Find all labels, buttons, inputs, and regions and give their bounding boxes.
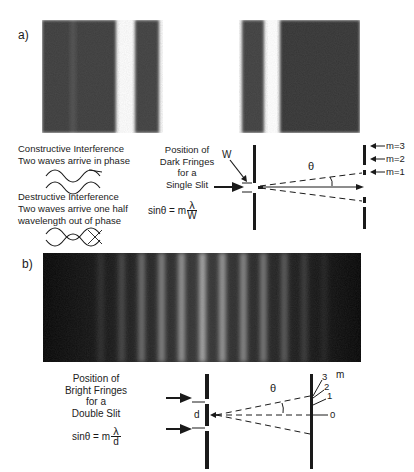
caption-line: Double Slit (56, 408, 136, 420)
equation-denominator: d (113, 437, 119, 447)
double-slit-equation: sinθ = m λ d (72, 426, 121, 447)
panel-b-label: b) (22, 257, 33, 271)
constructive-interference-text: Constructive Interference Two waves arri… (18, 143, 130, 167)
double-slit-diagram: d θ 3 2 1 0 m (160, 368, 360, 472)
equation-lhs: sinθ = m (148, 205, 186, 216)
incoming-light-arrow-icon (180, 424, 192, 434)
equation-numerator: λ (113, 426, 119, 436)
slit-separation-label: d (194, 409, 200, 420)
destructive-subtitle-line1: Two waves arrive one half (18, 203, 128, 215)
order-m1-label: m=1 (386, 166, 405, 177)
single-slit-fringe-image (42, 20, 360, 133)
angle-theta-label: θ (308, 160, 314, 172)
order-0-label: 0 (330, 409, 335, 420)
order-1-label: 1 (327, 390, 332, 401)
caption-line: Position of (56, 373, 136, 385)
destructive-title: Destructive Interference (18, 191, 128, 203)
double-slit-fringe-image (43, 253, 361, 362)
out-of-phase-waves-icon (44, 226, 104, 250)
single-slit-equation: sinθ = m λ W (148, 200, 197, 221)
single-slit-diagram: W θ m=3 m=2 m=1 (210, 140, 414, 235)
order-m3-label: m=3 (386, 140, 405, 151)
order-axis-label: m (336, 369, 344, 380)
destructive-interference-text: Destructive Interference Two waves arriv… (18, 191, 128, 227)
order-m2-label: m=2 (386, 153, 405, 164)
equation-denominator: W (187, 211, 196, 221)
double-slit-caption: Position of Bright Fringes for a Double … (56, 373, 136, 419)
panel-a-label: a) (18, 28, 29, 42)
equation-lhs: sinθ = m (72, 431, 110, 442)
incoming-light-arrow-icon (180, 393, 192, 403)
caption-line: Bright Fringes (56, 385, 136, 397)
equation-numerator: λ (189, 200, 195, 210)
angle-theta-label: θ (270, 382, 276, 394)
slit-width-label: W (222, 149, 232, 160)
caption-line: for a (56, 396, 136, 408)
constructive-title: Constructive Interference (18, 143, 130, 155)
